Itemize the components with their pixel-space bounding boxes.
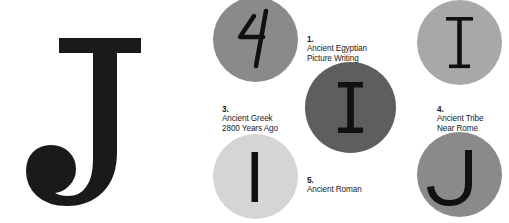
glyph-circle-modern-j bbox=[417, 132, 502, 217]
caption-roman: 5. Ancient Roman bbox=[307, 166, 412, 195]
letter-i-barred-icon bbox=[417, 0, 502, 85]
glyph-circle-egyptian bbox=[213, 0, 298, 82]
display-letter-j-glyph bbox=[14, 12, 189, 212]
caption-tribe-near-rome: 4. Ancient Tribe Near Rome bbox=[437, 95, 509, 133]
caption-text: Ancient Tribe Near Rome bbox=[437, 114, 484, 133]
letter-i-bar-icon bbox=[213, 134, 298, 219]
caption-number: 5. bbox=[307, 176, 314, 185]
caption-text: Ancient Egyptian Picture Writing bbox=[307, 44, 367, 63]
glyph-circle-tribe-near-rome bbox=[417, 0, 502, 85]
caption-number: 1. bbox=[307, 35, 314, 44]
caption-text: Ancient Greek 2800 Years Ago bbox=[222, 114, 278, 133]
caption-greek: 3. Ancient Greek 2800 Years Ago bbox=[222, 95, 322, 133]
hieroglyph-hand-stroke-icon bbox=[213, 0, 298, 82]
letter-j-sans-icon bbox=[417, 132, 502, 217]
caption-number: 4. bbox=[437, 105, 444, 114]
caption-text: Ancient Roman bbox=[307, 185, 362, 194]
display-letter-j bbox=[14, 12, 189, 212]
glyph-circle-roman bbox=[213, 134, 298, 219]
letter-evolution-figure: 1. Ancient Egyptian Picture Writing 3. A… bbox=[0, 0, 509, 223]
caption-number: 3. bbox=[222, 105, 229, 114]
caption-egyptian: 1. Ancient Egyptian Picture Writing bbox=[307, 25, 412, 63]
